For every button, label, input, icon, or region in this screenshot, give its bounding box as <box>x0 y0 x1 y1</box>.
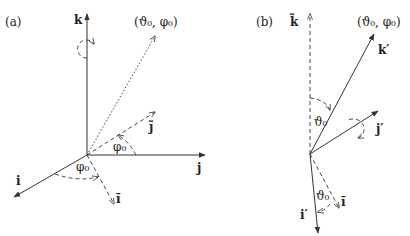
phi-lower-label: φ₀ <box>76 160 89 174</box>
direction-label: (ϑ₀, φ₀) <box>357 15 401 29</box>
k-label: k <box>74 13 83 27</box>
panel-b: (b) k̃ (ϑ₀, φ₀) k′ ϑ₀ j′ ϑ₀ ĩ i′ <box>256 13 401 233</box>
j-label: j <box>196 161 201 175</box>
rotation-diagram: (a) k (ϑ₀, φ₀) j̃ φ₀ j i φ₀ ĩ (b) k̃ (ϑ₀… <box>0 0 410 236</box>
phi-arc-lower <box>55 174 98 179</box>
i-label: i <box>16 174 21 188</box>
i-prime-label: i′ <box>300 208 308 222</box>
theta-upper-label: ϑ₀ <box>314 115 328 129</box>
theta-arc-lower <box>318 204 330 212</box>
theta-arc-upper <box>310 98 330 110</box>
k-tilde-label: k̃ <box>289 13 299 29</box>
theta-lower-label: ϑ₀ <box>316 189 330 203</box>
direction-label: (ϑ₀, φ₀) <box>134 15 178 29</box>
j-prime-label: j′ <box>375 122 384 136</box>
panel-label: (b) <box>256 15 273 29</box>
panel-label: (a) <box>5 15 22 29</box>
i-tilde-label: ĩ <box>341 195 346 209</box>
i-tilde-axis <box>87 155 114 204</box>
i-tilde-label: ĩ <box>116 192 121 206</box>
j-tilde-label: j̃ <box>148 120 154 134</box>
k-prime-label: k′ <box>378 43 389 57</box>
phi-upper-label: φ₀ <box>113 140 126 154</box>
rotation-circle-icon <box>78 40 94 58</box>
k-prime-axis <box>310 34 374 154</box>
panel-a: (a) k (ϑ₀, φ₀) j̃ φ₀ j i φ₀ ĩ <box>5 13 205 206</box>
